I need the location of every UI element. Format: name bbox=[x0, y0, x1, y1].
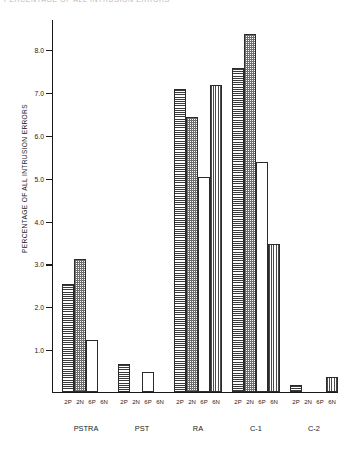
bar-slot bbox=[268, 20, 280, 392]
bar-group-bars bbox=[174, 20, 222, 392]
x-tick-label: 2N bbox=[302, 399, 314, 405]
group-label: C-2 bbox=[290, 424, 338, 433]
bar-group bbox=[290, 20, 338, 392]
bar-slot bbox=[142, 20, 154, 392]
x-tick-label: 6N bbox=[98, 399, 110, 405]
bar bbox=[244, 34, 256, 392]
x-axis-tick-labels: 2P2N6P6N2P2N6P6N2P2N6P6N2P2N6P6N2P2N6P6N bbox=[52, 399, 338, 411]
y-axis-label: PERCENTAGE OF ALL INTRUSION ERRORS bbox=[21, 79, 28, 279]
bar bbox=[74, 259, 86, 392]
bar-slot bbox=[186, 20, 198, 392]
bar-slot bbox=[210, 20, 222, 392]
bar-group bbox=[232, 20, 280, 392]
bar-slot bbox=[118, 20, 130, 392]
bar-slot bbox=[244, 20, 256, 392]
x-tick-label: 6P bbox=[86, 399, 98, 405]
group-label: PST bbox=[118, 424, 166, 433]
bar-slot bbox=[74, 20, 86, 392]
x-tick-label: 2P bbox=[232, 399, 244, 405]
x-tick-group: 2P2N6P6N bbox=[232, 399, 280, 405]
y-tick-label: 7.0 bbox=[35, 89, 44, 96]
y-tick-label: 5.0 bbox=[35, 175, 44, 182]
bar bbox=[186, 117, 198, 391]
x-tick-label: 2P bbox=[118, 399, 130, 405]
bar-group-bars bbox=[232, 20, 280, 392]
bar-slot bbox=[198, 20, 210, 392]
bar-slot bbox=[256, 20, 268, 392]
bar-group-bars bbox=[118, 20, 166, 392]
bar-group bbox=[174, 20, 222, 392]
bar-group-bars bbox=[290, 20, 338, 392]
bar-groups bbox=[52, 20, 338, 392]
x-tick-label: 2P bbox=[174, 399, 186, 405]
bar bbox=[142, 372, 154, 391]
bar bbox=[326, 377, 338, 392]
x-tick-label: 6N bbox=[210, 399, 222, 405]
bar bbox=[256, 162, 268, 391]
x-tick-label: 2N bbox=[74, 399, 86, 405]
cropped-header-text: PERCENTAGE OF ALL INTRUSION ERRORS bbox=[0, 0, 354, 9]
y-tick-label: 8.0 bbox=[35, 47, 44, 54]
group-labels: PSTRAPSTRAC-1C-2 bbox=[52, 424, 338, 438]
bar-slot bbox=[62, 20, 74, 392]
bar-slot bbox=[86, 20, 98, 392]
bar-slot bbox=[232, 20, 244, 392]
chart-figure: PERCENTAGE OF ALL INTRUSION ERRORS PERCE… bbox=[0, 0, 354, 450]
bar-slot bbox=[314, 20, 326, 392]
x-tick-label: 6P bbox=[256, 399, 268, 405]
bar bbox=[86, 340, 98, 391]
y-tick-label: 3.0 bbox=[35, 261, 44, 268]
bar-slot bbox=[98, 20, 110, 392]
bar bbox=[62, 284, 74, 391]
x-tick-label: 6N bbox=[154, 399, 166, 405]
bar bbox=[210, 85, 222, 392]
x-tick-label: 2N bbox=[244, 399, 256, 405]
plot-area: 1.02.03.04.05.06.07.08.0 bbox=[52, 20, 338, 393]
bar-group-bars bbox=[62, 20, 110, 392]
bar bbox=[290, 385, 302, 391]
x-tick-group: 2P2N6P6N bbox=[174, 399, 222, 405]
y-tick-label: 4.0 bbox=[35, 218, 44, 225]
x-tick-label: 2P bbox=[62, 399, 74, 405]
x-tick-label: 6N bbox=[326, 399, 338, 405]
group-label: PSTRA bbox=[62, 424, 110, 433]
bar-slot bbox=[290, 20, 302, 392]
bar bbox=[268, 244, 280, 392]
y-tick-label: 1.0 bbox=[35, 347, 44, 354]
bar bbox=[118, 364, 130, 392]
x-tick-label: 6N bbox=[268, 399, 280, 405]
bar bbox=[174, 89, 186, 391]
x-tick-label: 2P bbox=[290, 399, 302, 405]
bar bbox=[198, 177, 210, 391]
x-tick-label: 6P bbox=[198, 399, 210, 405]
x-tick-label: 6P bbox=[142, 399, 154, 405]
bar-slot bbox=[154, 20, 166, 392]
x-tick-label: 2N bbox=[186, 399, 198, 405]
x-tick-label: 2N bbox=[130, 399, 142, 405]
y-tick-label: 2.0 bbox=[35, 304, 44, 311]
x-tick-group: 2P2N6P6N bbox=[290, 399, 338, 405]
header-text: PERCENTAGE OF ALL INTRUSION ERRORS bbox=[0, 0, 354, 3]
bar-group bbox=[62, 20, 110, 392]
group-label: RA bbox=[174, 424, 222, 433]
bar bbox=[232, 68, 244, 392]
x-tick-group: 2P2N6P6N bbox=[62, 399, 110, 405]
bar-slot bbox=[174, 20, 186, 392]
bar-slot bbox=[302, 20, 314, 392]
bar-slot bbox=[130, 20, 142, 392]
x-axis-line bbox=[52, 392, 338, 393]
y-tick-label: 6.0 bbox=[35, 132, 44, 139]
x-tick-group: 2P2N6P6N bbox=[118, 399, 166, 405]
bar-group bbox=[118, 20, 166, 392]
x-tick-label: 6P bbox=[314, 399, 326, 405]
group-label: C-1 bbox=[232, 424, 280, 433]
bar-slot bbox=[326, 20, 338, 392]
